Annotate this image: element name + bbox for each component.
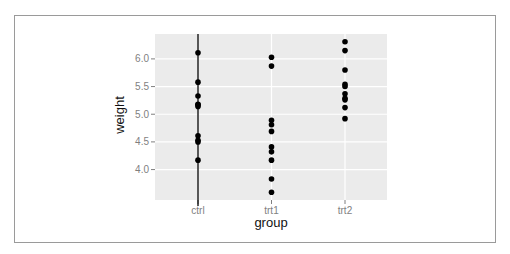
x-tick-label: ctrl: [191, 205, 204, 216]
data-point: [342, 39, 348, 45]
x-axis: ctrltrt1trt2: [191, 200, 352, 216]
data-point: [342, 116, 348, 122]
y-tick-label: 4.5: [135, 136, 149, 147]
data-point: [195, 50, 201, 56]
y-tick-label: 4.0: [135, 164, 149, 175]
data-point: [269, 149, 275, 155]
data-point: [269, 129, 275, 135]
x-tick-label: trt2: [338, 205, 353, 216]
data-point: [269, 118, 275, 124]
data-point: [195, 137, 201, 143]
data-point: [269, 144, 275, 150]
data-point: [269, 63, 275, 69]
data-point: [342, 97, 348, 103]
data-point: [195, 79, 201, 85]
data-point: [342, 105, 348, 111]
data-point: [195, 157, 201, 163]
data-point: [269, 157, 275, 163]
scatter-chart: 4.04.55.05.56.0 ctrltrt1trt2 group weigh…: [0, 0, 510, 254]
y-tick-label: 5.5: [135, 81, 149, 92]
y-tick-label: 5.0: [135, 109, 149, 120]
data-point: [342, 67, 348, 73]
y-axis-title: weight: [112, 96, 127, 135]
data-point: [342, 84, 348, 90]
data-point: [269, 176, 275, 182]
data-point: [269, 189, 275, 195]
data-point: [342, 48, 348, 54]
y-tick-label: 6.0: [135, 53, 149, 64]
x-axis-title: group: [254, 215, 287, 230]
data-point: [269, 54, 275, 60]
data-point: [195, 104, 201, 110]
y-axis: 4.04.55.05.56.0: [135, 53, 155, 175]
data-point: [195, 93, 201, 99]
